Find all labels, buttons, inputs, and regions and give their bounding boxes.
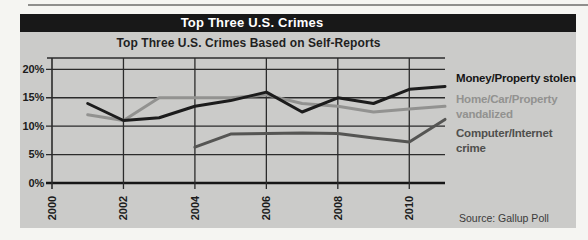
legend-label-money-property-stolen: Money/Property stolen xyxy=(456,71,582,86)
x-axis-tick-label: 2006 xyxy=(259,191,273,225)
y-axis-tick-label: 5% xyxy=(14,148,44,160)
legend-label-computer-internet-crime: Computer/Internet crime xyxy=(456,126,582,156)
y-axis-tick-label: 20% xyxy=(14,63,44,75)
x-axis-tick-label: 2010 xyxy=(402,191,416,225)
y-axis-tick-label: 0% xyxy=(14,177,44,189)
x-axis-tick-label: 2008 xyxy=(331,191,345,225)
series-line-2 xyxy=(195,119,445,147)
scanned-chart-figure: Top Three U.S. Crimes Top Three U.S. Cri… xyxy=(0,0,588,240)
x-axis-tick-label: 2004 xyxy=(188,191,202,225)
legend-label-home-car-property-vandalized: Home/Car/Property vandalized xyxy=(456,92,582,122)
x-axis-tick-label: 2002 xyxy=(116,191,130,225)
source-note: Source: Gallup Poll xyxy=(459,212,549,224)
y-axis-tick-label: 15% xyxy=(14,91,44,103)
y-axis-tick-label: 10% xyxy=(14,120,44,132)
x-axis-tick-label: 2000 xyxy=(45,191,59,225)
